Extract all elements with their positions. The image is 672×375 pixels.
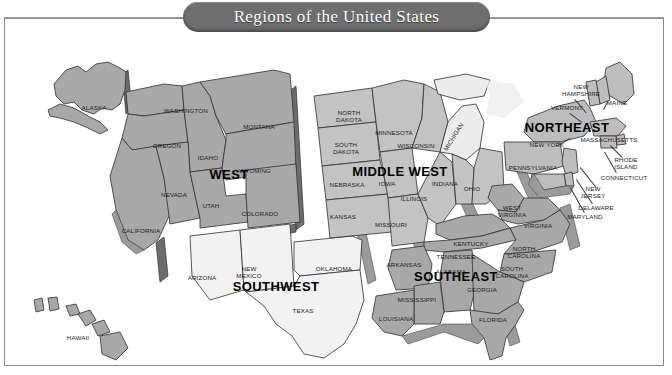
banner-rule-left [4, 17, 186, 18]
united-states-map [4, 18, 664, 366]
map-page: ALASKAHAWAIIWASHINGTONOREGONCALIFORNIAID… [0, 0, 672, 375]
banner-rule-right [487, 17, 664, 18]
map-title-banner: Regions of the United States [183, 2, 490, 32]
northeast-region-states [504, 62, 634, 206]
state-alaska-shape [48, 62, 132, 134]
state-hawaii-shape [34, 297, 128, 360]
page-title: Regions of the United States [234, 7, 440, 27]
southwest-region-states [190, 223, 376, 358]
